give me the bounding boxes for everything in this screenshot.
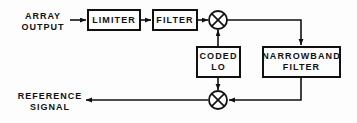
- block-limiter[interactable]: LIMITER: [87, 9, 141, 31]
- wire-narrowband-to-lower-mixer: [229, 78, 301, 100]
- block-filter[interactable]: FILTER: [152, 9, 198, 31]
- lower-mixer-icon: [209, 91, 227, 109]
- upper-mixer-icon: [209, 11, 227, 29]
- wire-upper-mixer-to-narrowband: [227, 20, 301, 45]
- block-narrowband-filter[interactable]: NARROWBAND FILTER: [262, 46, 341, 78]
- block-diagram: LIMITER FILTER CODED LO NARROWBAND FILTE…: [0, 0, 357, 123]
- label-array-output: ARRAY OUTPUT: [16, 11, 70, 33]
- label-reference-signal: REFERENCE SIGNAL: [14, 91, 86, 113]
- block-coded-lo[interactable]: CODED LO: [196, 46, 241, 78]
